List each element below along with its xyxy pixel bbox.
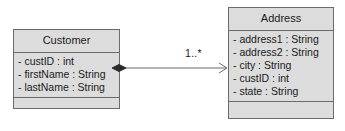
class-name-address: Address (229, 8, 333, 30)
attribute-row: - city : String (229, 59, 333, 72)
uml-class-customer[interactable]: Customer - custID : int - firstName : St… (13, 29, 120, 109)
operations-compartment-customer (14, 97, 119, 106)
attributes-compartment-address: - address1 : String - address2 : String … (229, 30, 333, 101)
open-arrowhead-icon (219, 63, 227, 73)
attribute-row: - address1 : String (229, 33, 333, 46)
multiplicity-label: 1..* (185, 48, 202, 59)
attribute-row: - lastName : String (14, 81, 119, 94)
uml-class-address[interactable]: Address - address1 : String - address2 :… (228, 7, 334, 119)
attribute-row: - custID : int (229, 72, 333, 85)
uml-class-diagram-canvas: Customer - custID : int - firstName : St… (0, 0, 345, 131)
attribute-row: - firstName : String (14, 68, 119, 81)
operations-compartment-address (229, 101, 333, 110)
attribute-row: - address2 : String (229, 46, 333, 59)
attributes-compartment-customer: - custID : int - firstName : String - la… (14, 52, 119, 97)
attribute-row: - state : String (229, 85, 333, 98)
class-name-customer: Customer (14, 30, 119, 52)
attribute-row: - custID : int (14, 55, 119, 68)
